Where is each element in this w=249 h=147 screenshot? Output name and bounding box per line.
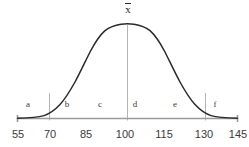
x-tick-label-100: 100 [110, 128, 140, 141]
normal-distribution-figure: x a b c d e f 55 70 85 100 115 130 145 [0, 0, 249, 147]
x-tick-label-85: 85 [71, 128, 101, 141]
mean-symbol-text: x [125, 3, 131, 15]
region-label-a: a [20, 99, 36, 109]
x-tick-label-70: 70 [35, 128, 65, 141]
region-label-b: b [59, 99, 75, 109]
region-label-c: c [92, 99, 108, 109]
region-label-e: e [167, 99, 183, 109]
x-tick-label-130: 130 [189, 128, 219, 141]
region-label-d: d [127, 99, 143, 109]
x-tick-label-55: 55 [3, 128, 33, 141]
x-tick-label-115: 115 [149, 128, 179, 141]
mean-symbol-label: x [118, 3, 138, 15]
x-tick-label-145: 145 [223, 128, 249, 141]
bell-curve-plot [0, 0, 249, 147]
region-label-f: f [207, 99, 223, 109]
